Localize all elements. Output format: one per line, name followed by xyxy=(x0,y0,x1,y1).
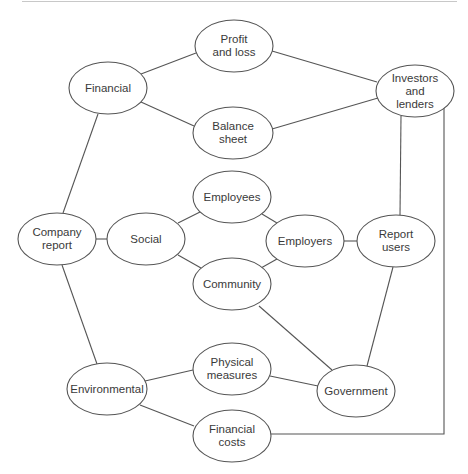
edge-social-to-employees xyxy=(178,212,200,223)
edge-financial-to-company-report xyxy=(63,114,98,213)
node-social-ellipse xyxy=(107,213,185,265)
node-balance-sheet-ellipse xyxy=(193,107,273,159)
node-investors-and-lenders-ellipse xyxy=(376,65,454,117)
edge-investors-and-lenders-to-report-users xyxy=(400,116,401,215)
node-environmental-ellipse xyxy=(67,363,147,415)
node-profit-and-loss-ellipse xyxy=(195,20,273,72)
node-employers-ellipse xyxy=(266,215,344,267)
node-government-ellipse xyxy=(317,365,395,417)
node-financial-ellipse xyxy=(69,62,147,114)
node-community-ellipse xyxy=(193,258,271,310)
node-company-report-ellipse xyxy=(18,213,96,265)
edge-environmental-to-financial-costs xyxy=(140,405,194,426)
edge-social-to-community xyxy=(178,255,201,268)
concept-map-canvas xyxy=(0,0,468,474)
node-financial-costs-ellipse xyxy=(193,410,271,462)
edge-profit-and-loss-to-investors-and-lenders xyxy=(272,51,377,82)
edge-report-users-to-government xyxy=(367,267,393,366)
edge-financial-to-balance-sheet xyxy=(141,102,194,126)
edge-employees-to-employers xyxy=(262,214,277,223)
nodes-layer xyxy=(18,20,454,462)
edge-company-report-to-environmental xyxy=(62,265,97,364)
node-employees-ellipse xyxy=(193,171,271,223)
node-physical-measures-ellipse xyxy=(193,343,271,395)
edge-community-to-employers xyxy=(261,259,277,268)
edge-physical-measures-to-government xyxy=(270,376,318,386)
edge-environmental-to-physical-measures xyxy=(145,370,193,381)
node-report-users-ellipse xyxy=(357,215,435,267)
edge-financial-to-profit-and-loss xyxy=(141,53,196,74)
edge-community-to-government xyxy=(259,306,332,370)
edge-balance-sheet-to-investors-and-lenders xyxy=(272,98,378,129)
